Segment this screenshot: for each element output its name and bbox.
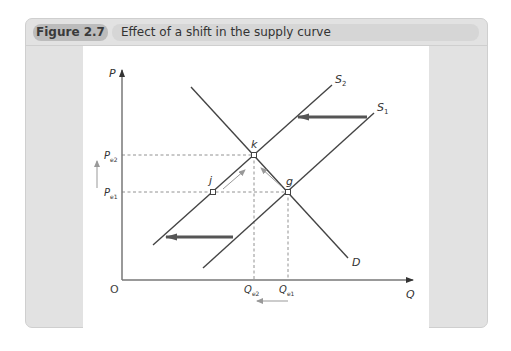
arrow-g-to-k [261,168,282,187]
x-axis-label: Q [406,288,415,301]
origin-label: O [110,283,119,296]
curve-label-s1: S1 [377,101,388,116]
point-label-k: k [251,138,258,151]
point-k [252,153,257,158]
supply-curve-s2 [153,85,332,245]
point-label-g: g [286,175,293,188]
demand-curve [191,87,348,258]
tick-label-qe2: Qe2 [244,284,260,297]
point-label-j: j [207,174,213,187]
supply-demand-diagram: P Q O j k g D S1 S2 Pe2 Pe1 Qe2 Qe1 [0,0,511,351]
point-j [211,190,216,195]
y-axis-label: P [109,67,116,80]
dashed-guides [122,155,288,280]
tick-label-pe1: Pe1 [104,187,118,200]
curve-label-s2: S2 [335,73,346,88]
tick-label-qe1: Qe1 [279,284,295,297]
curve-label-d: D [352,256,360,269]
tick-label-pe2: Pe2 [104,150,118,163]
point-g [286,190,291,195]
